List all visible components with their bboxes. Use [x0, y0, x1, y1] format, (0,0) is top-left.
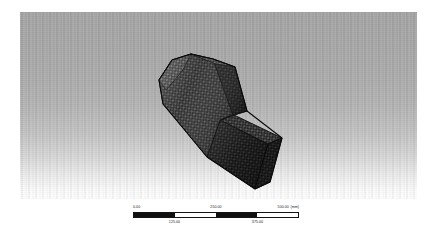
- scale-bar-track: [133, 212, 299, 218]
- scale-bar: 0.00 250.00 500.00(mm) 125.00 375.00: [133, 205, 299, 235]
- scale-bar-segment: [134, 213, 175, 217]
- scale-tick-label-375: 375.00: [252, 220, 263, 225]
- scale-tick-label-500: 500.00: [278, 205, 289, 209]
- projectile-mesh-model[interactable]: [20, 12, 417, 199]
- scale-bar-segment: [175, 213, 216, 217]
- scale-tick-label-500-group: 500.00(mm): [278, 205, 299, 210]
- scale-units-label: (mm): [290, 205, 299, 209]
- ansys-mesh-screenshot: 0.00 250.00 500.00(mm) 125.00 375.00: [0, 0, 434, 249]
- model-layer[interactable]: [20, 12, 417, 199]
- scale-tick-label-0: 0.00: [133, 205, 140, 210]
- scale-bar-segment: [257, 213, 298, 217]
- 3d-viewport[interactable]: [20, 12, 417, 199]
- scale-tick-label-250: 250.00: [210, 205, 221, 210]
- scale-tick-label-125: 125.00: [169, 220, 180, 225]
- scale-bar-segment: [216, 213, 257, 217]
